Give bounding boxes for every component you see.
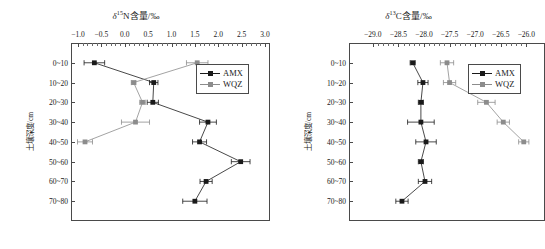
- data-point-wqz: [131, 80, 136, 85]
- figure-isotope-depth-profiles: δ15N含量/‰ −1.0−0.50.00.51.01.52.02.53.0 0…: [0, 0, 545, 249]
- legend-marker-amx-left: [200, 73, 220, 74]
- data-point-amx: [424, 139, 429, 144]
- legend-item-wqz-left: WQZ: [200, 79, 243, 90]
- data-point-amx: [419, 100, 424, 105]
- data-point-wqz: [501, 120, 506, 125]
- data-point-amx: [206, 120, 211, 125]
- data-point-amx: [150, 100, 155, 105]
- data-point-amx: [204, 179, 209, 184]
- legend-item-amx-left: AMX: [200, 68, 243, 79]
- legend-right: AMX WQZ: [468, 64, 521, 94]
- data-point-wqz: [447, 80, 452, 85]
- data-point-amx: [421, 80, 426, 85]
- panel-delta13C: δ13C含量/‰ −29.0−28.5−28.0−27.5−27.0−26.5−…: [272, 0, 545, 249]
- legend-marker-wqz-right: [472, 84, 492, 85]
- data-point-wqz: [445, 60, 450, 65]
- legend-left: AMX WQZ: [196, 64, 249, 94]
- data-point-wqz: [133, 120, 138, 125]
- legend-marker-amx-right: [472, 73, 492, 74]
- data-point-amx: [192, 199, 197, 204]
- legend-label-amx-left: AMX: [223, 68, 243, 79]
- data-point-amx: [151, 80, 156, 85]
- series-plot-left: [0, 0, 272, 249]
- legend-item-amx-right: AMX: [472, 68, 515, 79]
- data-point-amx: [423, 179, 428, 184]
- legend-item-wqz-right: WQZ: [472, 79, 515, 90]
- legend-marker-wqz-left: [200, 84, 220, 85]
- panel-delta15N: δ15N含量/‰ −1.0−0.50.00.51.01.52.02.53.0 0…: [0, 0, 272, 249]
- legend-label-wqz-right: WQZ: [495, 79, 514, 90]
- data-point-wqz: [521, 139, 526, 144]
- data-point-amx: [92, 60, 97, 65]
- data-point-amx: [400, 199, 405, 204]
- data-point-amx: [419, 120, 424, 125]
- data-point-wqz: [140, 100, 145, 105]
- series-plot-right: [272, 0, 545, 249]
- data-point-amx: [419, 159, 424, 164]
- data-point-amx: [410, 60, 415, 65]
- data-point-wqz: [83, 139, 88, 144]
- legend-label-amx-right: AMX: [495, 68, 515, 79]
- legend-label-wqz-left: WQZ: [223, 79, 242, 90]
- data-point-amx: [238, 159, 243, 164]
- data-point-wqz: [484, 100, 489, 105]
- data-point-amx: [197, 139, 202, 144]
